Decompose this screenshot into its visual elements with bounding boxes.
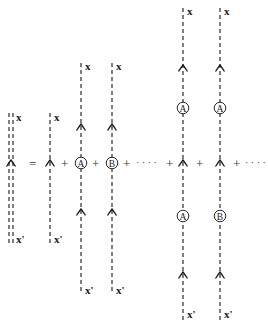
label-x: x [54,111,60,123]
label-xprime: x' [187,308,196,320]
ellipsis: · · · · [245,157,266,168]
plus-sign: + [233,156,240,171]
term-double-AA: A A x x' [177,5,195,322]
vertex-label-B: B [109,159,115,169]
arrow-up-icon [7,160,16,167]
plus-sign: + [196,156,203,171]
term-single-B: B x x' [106,60,124,296]
label-xprime: x' [54,233,63,245]
plus-sign: + [123,156,130,171]
arrow-up-icon [179,65,188,72]
label-x: x [85,60,91,72]
lhs-label-x: x [16,111,22,123]
equals-sign: = [29,156,36,171]
arrow-up-icon [216,65,225,72]
term-single-A: A x x' [75,60,93,296]
lhs-label-xprime: x' [16,233,25,245]
label-xprime: x' [224,308,233,320]
label-x: x [224,5,230,17]
plus-sign: + [61,156,68,171]
plus-sign: + [92,156,99,171]
term-double-AB: A B x x' [214,5,232,322]
propagator-expansion-diagram: x x' = x x' + A x x' + B x x' + · · · · … [0,0,268,327]
vertex-label-A: A [180,104,187,114]
vertex-label-A: A [78,159,85,169]
plus-sign: + [166,156,173,171]
label-x: x [116,60,122,72]
vertex-label-B: B [217,212,223,222]
vertex-label-A: A [180,212,187,222]
label-xprime: x' [116,284,125,296]
lhs-dressed-propagator: x x' [7,111,25,245]
label-x: x [187,5,193,17]
term-bare-propagator: x x' [46,111,63,245]
ellipsis: · · · · [136,157,157,168]
vertex-label-A: A [217,104,224,114]
label-xprime: x' [85,284,94,296]
